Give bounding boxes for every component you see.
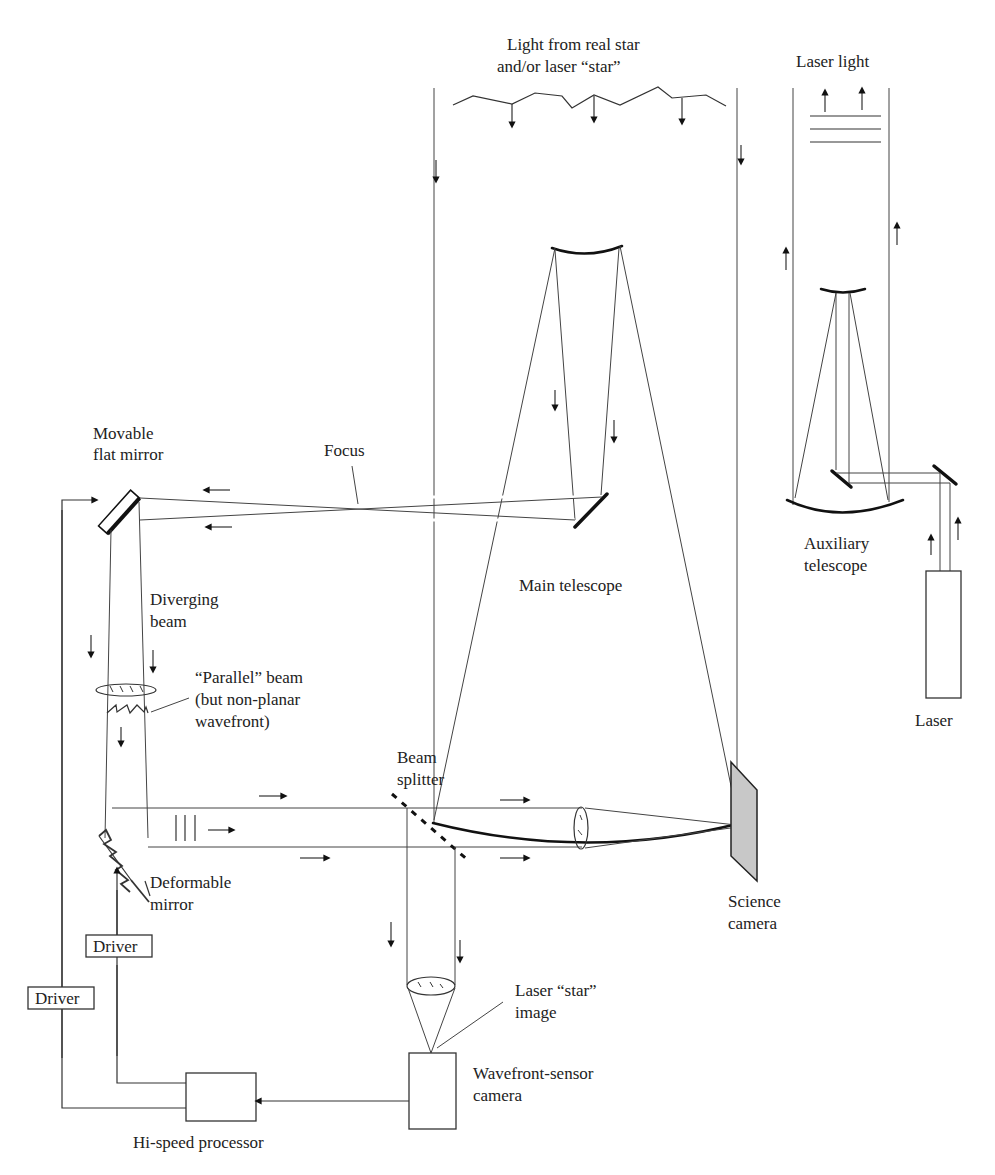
diverging-beam [91, 502, 189, 838]
movable-flat-mirror [62, 490, 140, 1058]
hi-speed-processor-box [186, 1073, 256, 1121]
sensor-lens [407, 977, 455, 995]
sensor-beam [391, 808, 503, 1053]
focus-label: Focus [324, 441, 365, 460]
tertiary-mirror [575, 494, 607, 527]
laser-label: Laser [915, 711, 953, 730]
adaptive-optics-diagram: Light from real star and/or laser “star”… [0, 0, 995, 1175]
laser-box [926, 571, 961, 698]
distorted-wavefront [453, 87, 726, 108]
science-camera [731, 762, 757, 881]
deformable-mirror-label-1: Deformable [150, 873, 231, 892]
wavefront-camera-label-2: camera [473, 1086, 523, 1105]
main-telescope-label: Main telescope [519, 576, 622, 595]
driver-label-2: Driver [35, 989, 80, 1008]
up-arrow-icon [786, 90, 958, 555]
diverging-beam-label-1: Diverging [150, 590, 219, 609]
science-camera-label-2: camera [728, 914, 778, 933]
right-arrow-icon [208, 796, 527, 858]
incoming-light-label-2: and/or laser “star” [497, 57, 621, 76]
wavefront-sensor-camera [409, 1053, 456, 1129]
auxiliary-label-1: Auxiliary [804, 534, 870, 553]
auxiliary-label-2: telescope [804, 556, 867, 575]
laser-star-label-2: image [515, 1003, 557, 1022]
auxiliary-telescope [786, 88, 958, 572]
movable-mirror-label-2: flat mirror [93, 445, 164, 464]
driver-label-1: Driver [93, 937, 138, 956]
processor-label: Hi-speed processor [133, 1133, 264, 1152]
beam-splitter-label-2: splitter [397, 770, 445, 789]
secondary-mirror [552, 246, 622, 254]
parallel-beam-label-3: wavefront) [195, 712, 270, 731]
science-camera-label-1: Science [728, 892, 781, 911]
diverging-beam-label-2: beam [150, 612, 187, 631]
deformable-mirror-label-2: mirror [150, 895, 194, 914]
wavefront-camera-label-1: Wavefront-sensor [473, 1064, 594, 1083]
parallel-beam-label-1: “Parallel” beam [195, 668, 303, 687]
beam-splitter-label-1: Beam [397, 748, 437, 767]
control-lines [62, 510, 409, 1108]
parallel-beam [112, 794, 748, 862]
parallel-beam-label-2: (but non-planar [195, 690, 301, 709]
incoming-light-label-1: Light from real star [507, 35, 640, 54]
movable-mirror-label-1: Movable [93, 424, 153, 443]
collimating-lens [96, 684, 156, 696]
laser-star-label-1: Laser “star” [515, 981, 597, 1000]
laser-light-label: Laser light [796, 52, 869, 71]
down-arrow-icon [436, 96, 741, 440]
beam-to-focus [138, 466, 602, 527]
